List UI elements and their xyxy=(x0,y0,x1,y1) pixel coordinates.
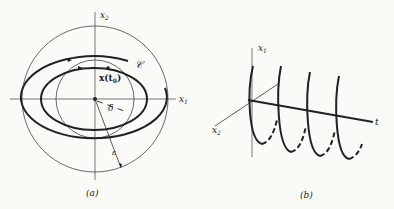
initial-point xyxy=(106,66,110,70)
svg-text:x1: x1 xyxy=(179,94,188,105)
point-label: x(t xyxy=(99,73,114,83)
caption-b: (b) xyxy=(300,190,313,200)
figure: x2 x1 𝒞 x(t0) δ ε (a) x1 x2 t (b) xyxy=(0,0,394,209)
delta-label: δ xyxy=(108,103,113,113)
t-axis xyxy=(248,100,373,122)
panel-a: x2 x1 𝒞 x(t0) δ ε (a) xyxy=(10,10,188,198)
orbit-label: 𝒞 xyxy=(135,59,145,70)
svg-text:x1: x1 xyxy=(258,43,267,54)
helix xyxy=(250,66,362,159)
x2-axis-b xyxy=(215,84,278,126)
svg-text:x2: x2 xyxy=(212,125,221,136)
caption-a: (a) xyxy=(86,188,99,198)
epsilon-label: ε xyxy=(112,148,116,157)
panel-b: x1 x2 t (b) xyxy=(212,43,379,200)
svg-text:x2: x2 xyxy=(100,10,109,21)
svg-text:x(t0): x(t0) xyxy=(99,73,121,84)
t-label: t xyxy=(375,117,379,127)
